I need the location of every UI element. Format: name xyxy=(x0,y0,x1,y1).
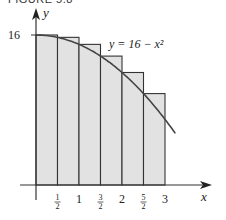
riemann-rectangle xyxy=(144,94,166,185)
x-tick-label: 2 xyxy=(119,192,125,206)
x-tick-numerator: 5 xyxy=(142,193,146,202)
x-tick-denominator: 2 xyxy=(56,202,60,211)
x-tick-numerator: 1 xyxy=(56,193,60,202)
y-axis-label: y xyxy=(41,5,49,20)
riemann-rectangle xyxy=(36,35,58,185)
x-tick-labels: 121322523 xyxy=(55,192,169,211)
x-tick-numerator: 3 xyxy=(99,193,103,202)
riemann-rectangle xyxy=(101,56,123,185)
riemann-rectangle xyxy=(79,44,101,185)
riemann-sum-plot: 16 y x y = 16 − x² 121322523 xyxy=(0,0,226,220)
x-tick-denominator: 2 xyxy=(142,202,146,211)
x-tick-label: 1 xyxy=(76,192,82,206)
rectangles-group xyxy=(36,35,165,185)
curve-label: y = 16 − x² xyxy=(108,37,164,51)
x-tick-denominator: 2 xyxy=(99,202,103,211)
y-tick-label-16: 16 xyxy=(8,28,20,42)
x-tick-label: 3 xyxy=(162,192,168,206)
riemann-rectangle xyxy=(58,37,80,185)
x-axis-label: x xyxy=(200,189,207,204)
